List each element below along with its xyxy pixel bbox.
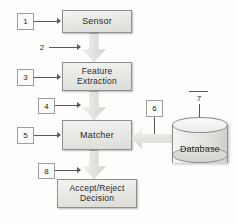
node-database-label: Database [172, 144, 228, 154]
callout-3[interactable]: 3 [17, 69, 34, 86]
connector-database-to-matcher-outline [131, 128, 174, 149]
callout-7-number: 7 [197, 94, 201, 103]
callout-4-arrowhead [77, 102, 81, 108]
callout-7-overline [189, 91, 208, 92]
connector-matcher-to-decision-outline [82, 150, 106, 179]
callout-5-arrowhead [57, 132, 61, 138]
callout-6-number: 6 [152, 104, 156, 113]
callout-7[interactable]: 7 [192, 92, 206, 104]
node-database[interactable]: Database [172, 117, 228, 171]
callout-8-leader [55, 170, 78, 171]
database-cylinder-top [172, 117, 228, 133]
callout-2-leader [49, 47, 78, 48]
connector-sensor-to-feature-outline [82, 33, 106, 62]
callout-5-number: 5 [23, 131, 27, 140]
callout-5[interactable]: 5 [17, 127, 34, 144]
connector-feature-to-matcher [82, 91, 106, 120]
connector-sensor-to-feature [82, 33, 106, 62]
node-sensor-label: Sensor [63, 16, 131, 26]
callout-6-leader [154, 117, 155, 134]
callout-8[interactable]: 8 [38, 163, 55, 179]
callout-3-number: 3 [23, 73, 27, 82]
callout-8-number: 8 [44, 167, 48, 176]
callout-4[interactable]: 4 [38, 98, 55, 114]
callout-4-number: 4 [44, 102, 48, 111]
callout-6[interactable]: 6 [146, 100, 163, 117]
callout-3-arrowhead [57, 74, 61, 80]
connector-database-to-matcher [131, 128, 174, 149]
node-decision[interactable]: Accept/Reject Decision [57, 179, 137, 208]
diagram-canvas: Sensor 1 2 Feature Extraction 3 4 [0, 0, 236, 224]
connector-matcher-to-decision [82, 150, 106, 179]
node-decision-label: Accept/Reject Decision [58, 184, 136, 203]
callout-2[interactable]: 2 [36, 41, 48, 54]
node-sensor[interactable]: Sensor [62, 10, 132, 33]
node-feature-extraction-label: Feature Extraction [63, 67, 131, 86]
callout-5-leader [34, 135, 58, 136]
connector-feature-to-matcher-outline [82, 91, 106, 120]
callout-1-arrowhead [57, 18, 61, 24]
callout-3-leader [34, 77, 58, 78]
node-matcher-label: Matcher [63, 130, 131, 140]
callout-1-leader [34, 21, 58, 22]
callout-1-number: 1 [23, 17, 27, 26]
node-feature-extraction[interactable]: Feature Extraction [62, 62, 132, 91]
callout-2-arrowhead [77, 44, 81, 50]
callout-1[interactable]: 1 [17, 13, 34, 30]
callout-2-number: 2 [40, 43, 44, 52]
callout-4-leader [55, 105, 78, 106]
node-matcher[interactable]: Matcher [62, 120, 132, 150]
callout-8-arrowhead [77, 167, 81, 173]
